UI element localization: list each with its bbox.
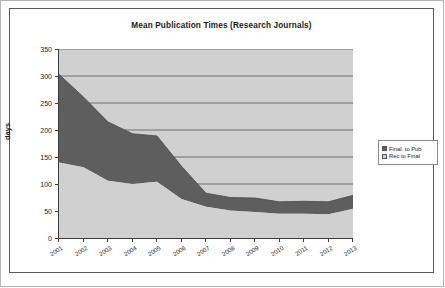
- x-axis-tick: [58, 239, 59, 242]
- x-axis-tick: [328, 239, 329, 242]
- x-axis-tick: [279, 239, 280, 242]
- x-axis-tick-label: 2002: [71, 244, 88, 258]
- legend-swatch-icon: [382, 154, 387, 159]
- x-axis-tick: [107, 239, 108, 242]
- x-axis-tick-label: 2007: [193, 244, 210, 258]
- x-axis-tick: [230, 239, 231, 242]
- x-axis-tick-label: 2004: [120, 244, 137, 258]
- x-axis-tick: [156, 239, 157, 242]
- x-axis-tick-label: 2009: [242, 244, 259, 258]
- y-axis-tick-label: 250: [26, 100, 52, 107]
- plot-area: [58, 49, 353, 239]
- y-axis-title: days: [3, 123, 12, 140]
- y-axis-tick-label: 150: [26, 154, 52, 161]
- x-axis-tick: [254, 239, 255, 242]
- y-axis-tick-label: 50: [26, 208, 52, 215]
- legend-item-label: Rec to Final: [389, 153, 420, 159]
- y-axis-tick-label: 300: [26, 73, 52, 80]
- legend-item: Final. to Pub: [382, 146, 435, 152]
- x-axis-tick-label: 2008: [218, 244, 235, 258]
- x-axis-tick: [83, 239, 84, 242]
- x-axis-tick-label: 2003: [95, 244, 112, 258]
- chart-area: Mean Publication Times (Research Journal…: [9, 8, 434, 273]
- x-axis-tick-label: 2012: [316, 244, 333, 258]
- x-axis-tick: [303, 239, 304, 242]
- y-axis-tick-label: 100: [26, 181, 52, 188]
- legend-item-label: Final. to Pub: [389, 146, 422, 152]
- x-axis-tick-label: 2005: [144, 244, 161, 258]
- chart-title: Mean Publication Times (Research Journal…: [10, 21, 433, 30]
- screenshot-root: Mean Publication Times (Research Journal…: [0, 0, 445, 288]
- area-chart-svg: [59, 49, 353, 238]
- x-axis-tick-label: 2001: [46, 244, 63, 258]
- x-axis-tick: [352, 239, 353, 242]
- x-axis-tick: [205, 239, 206, 242]
- x-axis-tick-label: 2006: [169, 244, 186, 258]
- legend-item: Rec to Final: [382, 153, 435, 159]
- y-axis-tick-label: 350: [26, 46, 52, 53]
- x-axis-tick: [132, 239, 133, 242]
- x-axis-tick-label: 2010: [267, 244, 284, 258]
- x-axis-tick-label: 2013: [340, 244, 357, 258]
- y-axis-tick-label: 200: [26, 127, 52, 134]
- x-axis-tick-label: 2011: [291, 244, 308, 258]
- x-axis-tick: [181, 239, 182, 242]
- chart-legend: Final. to Pub Rec to Final: [378, 140, 438, 165]
- legend-swatch-icon: [382, 146, 387, 151]
- y-axis-tick-label: 0: [26, 235, 52, 242]
